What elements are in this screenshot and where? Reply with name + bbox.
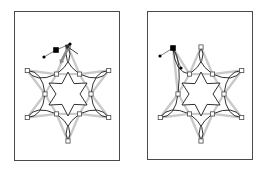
selected-control-point[interactable] xyxy=(170,45,176,51)
petal-tip-node[interactable] xyxy=(199,45,203,49)
petal-base-node[interactable] xyxy=(54,112,58,116)
control-dot[interactable] xyxy=(179,66,182,69)
petal-base-node[interactable] xyxy=(77,72,81,76)
right-panel-canvas[interactable] xyxy=(148,12,252,159)
petal-base-node[interactable] xyxy=(210,112,214,116)
petal-base-node[interactable] xyxy=(210,72,214,76)
petal-outline[interactable] xyxy=(57,114,80,141)
petal-skeleton-line xyxy=(190,114,213,141)
petal-tip-node[interactable] xyxy=(240,115,244,119)
petal-base-node[interactable] xyxy=(89,92,93,96)
left-panel-canvas[interactable] xyxy=(15,12,119,160)
petal-base-node[interactable] xyxy=(176,92,180,96)
petal-tip-node[interactable] xyxy=(107,68,111,72)
petal-skeleton-line xyxy=(57,114,80,141)
petal-outline[interactable] xyxy=(190,47,213,74)
petal-base-node[interactable] xyxy=(187,72,191,76)
petal-tip-node[interactable] xyxy=(199,139,203,143)
selected-control-point[interactable] xyxy=(53,47,59,53)
petal-tip-node[interactable] xyxy=(158,115,162,119)
control-dot[interactable] xyxy=(68,42,71,45)
petal-base-node[interactable] xyxy=(77,112,81,116)
right-flower-illustration xyxy=(148,12,254,161)
petal-base-node[interactable] xyxy=(222,92,226,96)
left-flower-illustration xyxy=(15,12,121,162)
petal-base-node[interactable] xyxy=(43,92,47,96)
control-dot[interactable] xyxy=(42,55,45,58)
petal-tip-node[interactable] xyxy=(107,115,111,119)
petal-outline[interactable] xyxy=(190,114,213,141)
figure-stage xyxy=(0,0,266,169)
left-panel xyxy=(14,11,120,161)
petal-tip-node[interactable] xyxy=(25,68,29,72)
petal-base-node[interactable] xyxy=(54,72,58,76)
right-panel xyxy=(147,11,253,160)
petal-tip-node[interactable] xyxy=(66,139,70,143)
petal-tip-node[interactable] xyxy=(25,115,29,119)
petal-skeleton-line xyxy=(190,47,213,74)
control-dot[interactable] xyxy=(158,54,161,57)
petal-tip-node[interactable] xyxy=(240,68,244,72)
petal-base-node[interactable] xyxy=(187,112,191,116)
